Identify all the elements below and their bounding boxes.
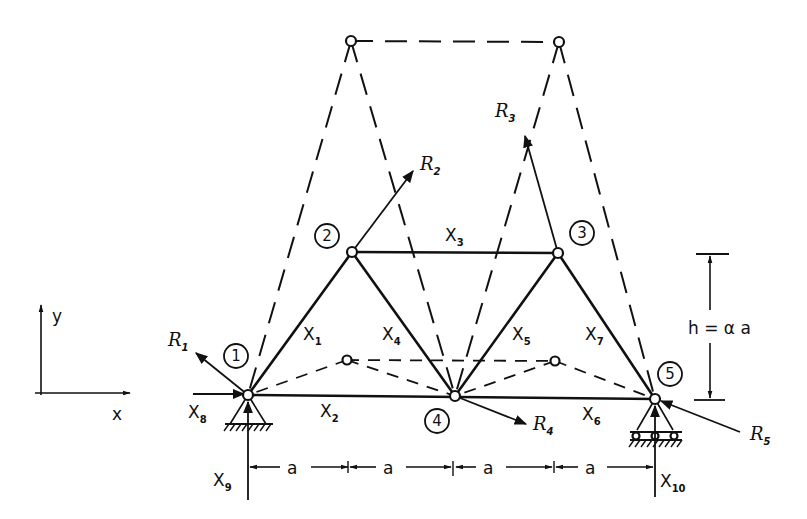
member-label-x2: X2: [320, 401, 339, 424]
load-r3-arrow: [525, 136, 558, 253]
height-label: h = α a: [688, 318, 751, 338]
truss-diagram: y x X1 X2 X3 X4 X5 X6 X7: [0, 0, 807, 519]
member-x5: [455, 253, 558, 396]
x-axis-label: x: [112, 404, 122, 424]
node-label-5: 5: [665, 365, 675, 383]
load-label-r3: R3: [494, 100, 516, 124]
node-3: [553, 248, 563, 258]
height-dimension: h = α a: [688, 254, 751, 400]
displaced-configuration-upper: [248, 36, 655, 399]
span-label-1: a: [287, 458, 297, 478]
load-label-r2: R2: [419, 153, 441, 177]
reaction-label-x8: X8: [188, 402, 207, 425]
load-r5-arrow: [661, 401, 740, 432]
span-label-4: a: [585, 458, 595, 478]
member-x4: [352, 252, 455, 396]
member-label-x3: X3: [445, 225, 464, 248]
node-1: [243, 390, 253, 400]
member-x1: [248, 252, 352, 395]
member-label-x6: X6: [582, 404, 601, 427]
span-label-2: a: [383, 458, 393, 478]
node-label-2: 2: [322, 227, 332, 245]
displaced-node-3-small: [551, 357, 560, 366]
span-label-3: a: [483, 458, 493, 478]
node-label-1: 1: [231, 347, 241, 365]
load-r2-arrow: [352, 171, 413, 252]
member-label-x7: X7: [585, 324, 604, 347]
load-r4-arrow: [455, 396, 526, 424]
member-label-x1: X1: [303, 324, 322, 347]
node-4: [450, 391, 460, 401]
span-dimensions: a a a a: [250, 458, 653, 478]
member-label-x5: X5: [512, 324, 531, 347]
member-x7: [558, 253, 655, 399]
load-label-r5: R5: [749, 423, 771, 447]
displaced-node-2: [346, 36, 356, 46]
coordinate-axes: y x: [35, 305, 130, 424]
displaced-node-3: [554, 37, 564, 47]
node-label-4: 4: [432, 412, 442, 430]
node-5: [650, 394, 660, 404]
node-label-3: 3: [577, 224, 587, 242]
reaction-label-x10: X10: [660, 471, 686, 494]
node-2: [347, 247, 357, 257]
load-label-r4: R4: [532, 413, 554, 437]
member-label-x4: X4: [382, 324, 401, 347]
member-x3: [352, 252, 558, 253]
displaced-node-2-small: [343, 356, 352, 365]
y-axis-label: y: [52, 306, 62, 326]
load-label-r1: R1: [167, 329, 189, 353]
reaction-label-x9: X9: [213, 470, 232, 493]
